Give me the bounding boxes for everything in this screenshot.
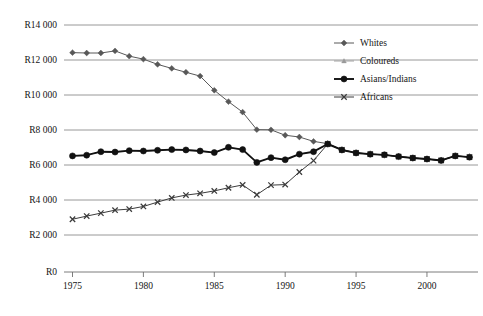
asians-indians-point-9 xyxy=(197,148,203,154)
asians-indians-point-4 xyxy=(126,148,132,154)
asians-indians-point-10 xyxy=(211,150,217,156)
asians-indians-point-20 xyxy=(353,150,359,156)
asians-indians-point-11 xyxy=(225,144,231,150)
whites-point-15 xyxy=(282,132,288,138)
whites-point-3 xyxy=(112,48,118,54)
asians-indians-point-25 xyxy=(424,156,430,162)
asians-indians-point-28 xyxy=(466,154,472,160)
africans-point-13 xyxy=(254,192,259,197)
y-axis-label-10000: R10 000 xyxy=(25,90,58,100)
whites-point-1 xyxy=(84,50,90,56)
whites-point-17 xyxy=(311,138,317,144)
africans-point-16 xyxy=(297,169,302,174)
x-axis-label-1980: 1980 xyxy=(134,281,153,291)
whites-point-7 xyxy=(169,66,175,72)
whites-point-6 xyxy=(155,61,161,67)
asians-indians-point-16 xyxy=(296,151,302,157)
asians-indians-point-18 xyxy=(325,141,331,147)
whites-point-5 xyxy=(140,56,146,62)
asians-indians-point-13 xyxy=(254,159,260,165)
gridlines-group: R0R2 000R4 000R6 000R8 000R10 000R12 000… xyxy=(25,20,478,277)
y-axis-label-12000: R12 000 xyxy=(25,55,58,65)
whites-point-14 xyxy=(268,127,274,133)
chart-container: R0R2 000R4 000R6 000R8 000R10 000R12 000… xyxy=(0,0,483,316)
whites-point-8 xyxy=(183,69,189,75)
asians-indians-point-21 xyxy=(367,151,373,157)
legend-item-whites[interactable]: Whites xyxy=(334,38,387,48)
x-axis-label-1985: 1985 xyxy=(205,281,224,291)
line-chart: R0R2 000R4 000R6 000R8 000R10 000R12 000… xyxy=(0,0,483,316)
series-asians-indians xyxy=(70,141,473,165)
asians-indians-point-0 xyxy=(70,153,76,159)
asians-indians-point-5 xyxy=(140,148,146,154)
asians-indians-point-6 xyxy=(155,147,161,153)
y-axis-label-2000: R2 000 xyxy=(29,230,57,240)
asians-indians-point-7 xyxy=(169,147,175,153)
whites-point-4 xyxy=(126,53,132,59)
legend-item-africans[interactable]: Africans xyxy=(334,92,393,102)
legend-label-africans: Africans xyxy=(360,92,393,102)
whites-legend-point-legend xyxy=(341,40,347,46)
legend-label-coloureds: Coloureds xyxy=(360,56,399,66)
series-line-whites xyxy=(73,51,470,160)
x-axis-group: 197519801985199019952000 xyxy=(63,272,437,291)
legend-item-coloureds[interactable]: Coloureds xyxy=(334,56,399,66)
asians-indians-point-2 xyxy=(98,149,104,155)
legend-item-asians-indians[interactable]: Asians/Indians xyxy=(334,74,417,84)
y-axis-label-4000: R4 000 xyxy=(29,195,57,205)
asians-indians-point-27 xyxy=(452,153,458,159)
legend-label-asians-indians: Asians/Indians xyxy=(360,74,417,84)
y-axis-label-0: R0 xyxy=(46,267,57,277)
asians-indians-legend-point-legend xyxy=(341,76,347,82)
chart-legend: WhitesColouredsAsians/IndiansAfricans xyxy=(334,38,417,102)
asians-indians-point-26 xyxy=(438,157,444,163)
asians-indians-point-24 xyxy=(410,155,416,161)
series-whites xyxy=(70,48,473,163)
asians-indians-point-15 xyxy=(282,157,288,163)
y-axis-label-6000: R6 000 xyxy=(29,160,57,170)
asians-indians-point-23 xyxy=(396,154,402,160)
asians-indians-point-14 xyxy=(268,155,274,161)
whites-point-0 xyxy=(70,50,76,56)
asians-indians-point-19 xyxy=(339,147,345,153)
x-axis-label-1995: 1995 xyxy=(347,281,366,291)
legend-label-whites: Whites xyxy=(360,38,387,48)
africans-point-17 xyxy=(311,158,316,163)
asians-indians-point-3 xyxy=(112,149,118,155)
y-axis-label-14000: R14 000 xyxy=(25,20,58,30)
asians-indians-point-17 xyxy=(311,149,317,155)
whites-point-2 xyxy=(98,50,104,56)
x-axis-label-2000: 2000 xyxy=(417,281,436,291)
x-axis-label-1990: 1990 xyxy=(276,281,295,291)
whites-point-16 xyxy=(296,134,302,140)
y-axis-label-8000: R8 000 xyxy=(29,125,57,135)
asians-indians-point-22 xyxy=(381,152,387,158)
asians-indians-point-8 xyxy=(183,147,189,153)
x-axis-label-1975: 1975 xyxy=(63,281,82,291)
asians-indians-point-12 xyxy=(240,147,246,153)
asians-indians-point-1 xyxy=(84,152,90,158)
